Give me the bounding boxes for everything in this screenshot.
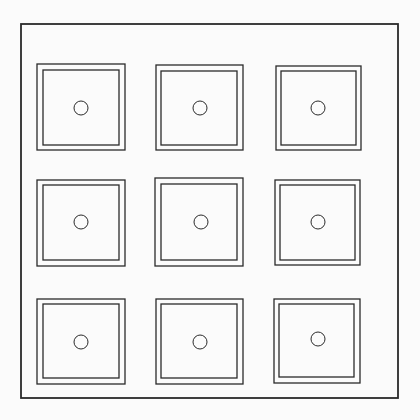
tile-inner-square [281, 71, 356, 145]
tile-inner-square [43, 304, 119, 378]
tile-outer-square [276, 66, 361, 150]
tile-r2c2 [155, 178, 243, 266]
tile-outer-square [37, 64, 125, 150]
tile-r2c3 [275, 180, 360, 265]
tile-inner-square [43, 70, 119, 145]
tile-r2c1 [37, 180, 125, 266]
tile-r1c2 [156, 65, 243, 150]
tile-center-circle-icon [74, 215, 88, 229]
tile-center-circle-icon [311, 215, 325, 229]
tile-center-circle-icon [311, 332, 325, 346]
tile-r3c3 [274, 299, 360, 383]
tile-center-circle-icon [193, 101, 207, 115]
tile-r3c2 [156, 299, 243, 384]
tile-outer-square [37, 180, 125, 266]
tile-outer-square [37, 299, 125, 384]
tile-grid-diagram [0, 0, 420, 420]
tile-outer-square [156, 299, 243, 384]
tile-inner-square [161, 184, 237, 260]
tile-r1c1 [37, 64, 125, 150]
tile-outer-square [275, 180, 360, 265]
tile-center-circle-icon [193, 335, 207, 349]
tile-center-circle-icon [194, 215, 208, 229]
tile-inner-square [279, 304, 354, 377]
tile-grid [37, 64, 361, 384]
tile-outer-square [155, 178, 243, 266]
tile-outer-square [156, 65, 243, 150]
tile-outer-square [274, 299, 360, 383]
outer-frame [21, 24, 398, 398]
tile-inner-square [43, 185, 119, 260]
tile-inner-square [161, 304, 237, 378]
tile-center-circle-icon [74, 335, 88, 349]
tile-center-circle-icon [311, 101, 325, 115]
tile-center-circle-icon [74, 101, 88, 115]
tile-inner-square [161, 71, 237, 145]
tile-inner-square [280, 185, 355, 260]
tile-r1c3 [276, 66, 361, 150]
tile-r3c1 [37, 299, 125, 384]
